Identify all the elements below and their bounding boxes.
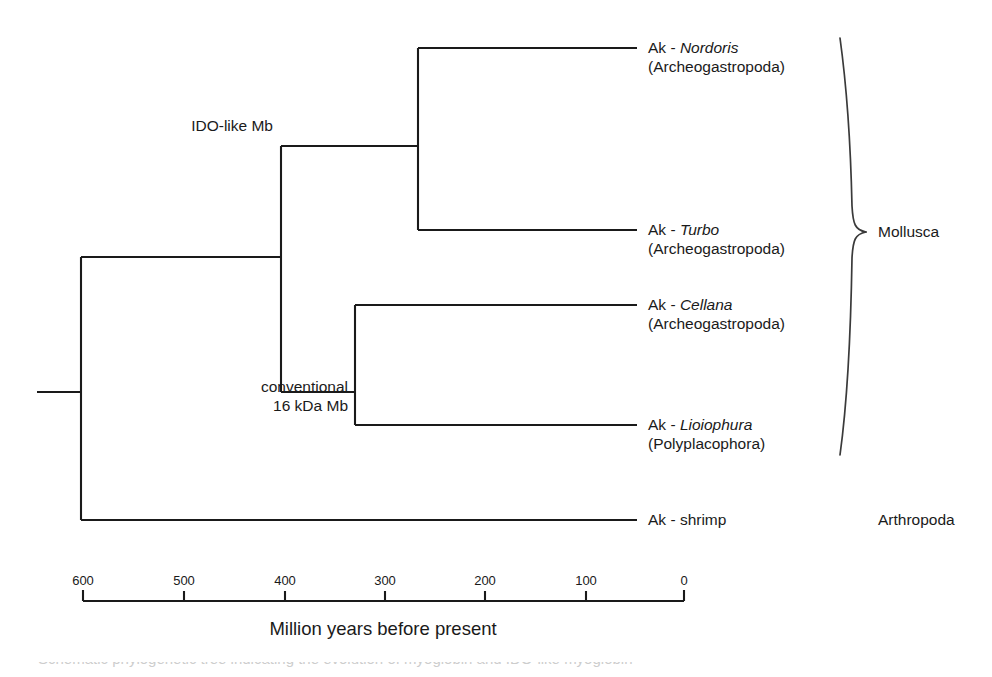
axis-tick-label-300: 300	[374, 573, 396, 588]
caption-fragment: Schematic phylogenetic tree indicating t…	[38, 662, 954, 677]
tip-prefix-cellana: Ak -	[648, 296, 680, 313]
tree-drawing	[0, 0, 992, 677]
axis-tick-label-400: 400	[274, 573, 296, 588]
node-label-conventional-line2: 16 kDa Mb	[273, 397, 348, 414]
axis-tick-label-200: 200	[474, 573, 496, 588]
group-label-arthropoda: Arthropoda	[878, 511, 955, 529]
node-label-conventional-mb: conventional 16 kDa Mb	[185, 378, 348, 415]
tip-genus-lioiophura: Lioiophura	[680, 416, 752, 433]
axis-tick-label-0: 0	[680, 573, 687, 588]
tip-class-cellana: (Archeogastropoda)	[648, 315, 785, 334]
phylogenetic-tree-figure: Ak - Nordoris (Archeogastropoda) Ak - Tu…	[0, 0, 992, 677]
group-label-mollusca: Mollusca	[878, 223, 939, 241]
node-label-ido-like-mb-text: IDO-like Mb	[191, 117, 273, 134]
tip-class-turbo: (Archeogastropoda)	[648, 240, 785, 259]
axis-title: Million years before present	[269, 618, 496, 640]
tip-label-cellana: Ak - Cellana (Archeogastropoda)	[648, 296, 785, 333]
tip-prefix-shrimp: Ak -	[648, 511, 680, 528]
tip-genus-cellana: Cellana	[680, 296, 733, 313]
tip-label-lioiophura: Ak - Lioiophura (Polyplacophora)	[648, 416, 765, 453]
tip-genus-nordoris: Nordoris	[680, 39, 739, 56]
tip-label-nordoris: Ak - Nordoris (Archeogastropoda)	[648, 39, 785, 76]
group-label-mollusca-text: Mollusca	[878, 223, 939, 240]
caption-fragment-text: Schematic phylogenetic tree indicating t…	[38, 662, 633, 666]
tip-genus-turbo: Turbo	[680, 221, 719, 238]
group-label-arthropoda-text: Arthropoda	[878, 511, 955, 528]
node-label-ido-like-mb: IDO-like Mb	[118, 117, 273, 136]
mollusca-brace-upper	[840, 38, 866, 232]
tip-class-lioiophura: (Polyplacophora)	[648, 435, 765, 454]
tip-genus-shrimp: shrimp	[680, 511, 727, 528]
axis-tick-label-100: 100	[575, 573, 597, 588]
axis-tick-label-600: 600	[72, 573, 94, 588]
node-label-conventional-line1: conventional	[261, 378, 348, 395]
tip-label-shrimp: Ak - shrimp	[648, 511, 726, 530]
tip-prefix-lioiophura: Ak -	[648, 416, 680, 433]
axis-tick-label-500: 500	[173, 573, 195, 588]
tip-prefix-turbo: Ak -	[648, 221, 680, 238]
tip-class-nordoris: (Archeogastropoda)	[648, 58, 785, 77]
tip-label-turbo: Ak - Turbo (Archeogastropoda)	[648, 221, 785, 258]
tip-prefix-nordoris: Ak -	[648, 39, 680, 56]
mollusca-brace-lower	[840, 232, 866, 455]
